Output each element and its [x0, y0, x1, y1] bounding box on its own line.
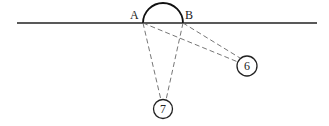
- dashed-line-a-7: [143, 23, 161, 100]
- dashed-line-b-7: [166, 23, 183, 100]
- dashed-line-b-6: [183, 23, 240, 58]
- sightline-diagram: 67 A B: [0, 0, 329, 126]
- node-label: 6: [244, 59, 250, 73]
- dashed-line-a-6: [143, 23, 238, 62]
- dashed-sightlines: [143, 23, 240, 100]
- node-label: 7: [160, 102, 166, 116]
- point-label-a: A: [130, 8, 139, 22]
- arc-a-b: [143, 3, 183, 23]
- node-6: 6: [237, 56, 257, 76]
- point-label-b: B: [185, 8, 193, 22]
- node-7: 7: [154, 100, 173, 119]
